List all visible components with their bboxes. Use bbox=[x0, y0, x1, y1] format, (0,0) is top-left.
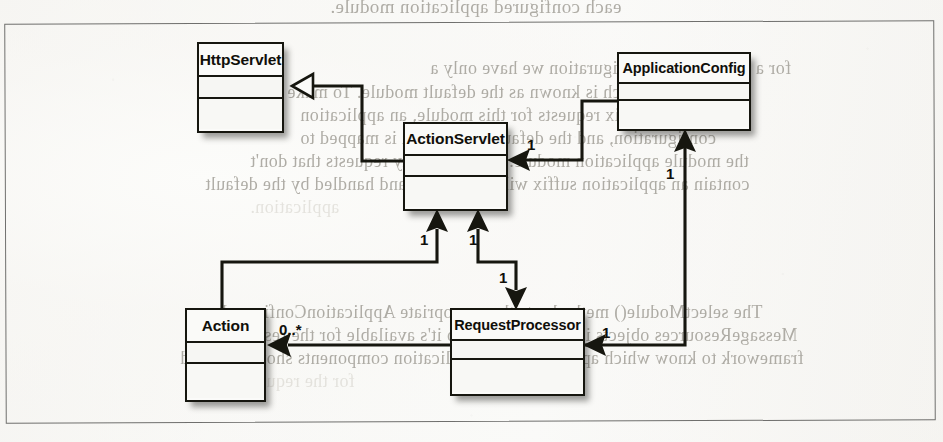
uml-class-attributes-compartment bbox=[199, 77, 282, 99]
mult-reqproc-action: 0..* bbox=[279, 322, 302, 337]
bleed-text-line: each configured application module. bbox=[330, 0, 622, 18]
uml-class-name: ApplicationConfig bbox=[619, 54, 749, 84]
uml-class-operations-compartment bbox=[199, 99, 282, 129]
mult-actionservlet-reqproc-b: 1 bbox=[499, 270, 507, 285]
uml-class-operations-compartment bbox=[187, 364, 264, 398]
uml-class-operations-compartment bbox=[405, 177, 506, 207]
mult-appconfig-actionservlet: 1 bbox=[527, 137, 535, 152]
uml-class-name: RequestProcessor bbox=[452, 310, 583, 341]
uml-class-attributes-compartment bbox=[619, 84, 749, 101]
uml-class-applicationconfig[interactable]: ApplicationConfig bbox=[617, 52, 751, 131]
uml-class-name: ActionServlet bbox=[405, 124, 506, 156]
mult-reqproc-appconfig-lower: 1 bbox=[602, 325, 610, 340]
uml-class-actionservlet[interactable]: ActionServlet bbox=[403, 122, 508, 211]
uml-class-operations-compartment bbox=[619, 101, 749, 127]
uml-class-attributes-compartment bbox=[187, 343, 264, 364]
uml-class-name: Action bbox=[187, 310, 264, 343]
mult-reqproc-appconfig: 1 bbox=[666, 166, 674, 181]
uml-class-name: HttpServlet bbox=[199, 44, 282, 77]
mult-actionservlet-reqproc-a: 1 bbox=[469, 232, 477, 247]
mult-action-actionservlet: 1 bbox=[420, 232, 428, 247]
uml-class-httpservlet[interactable]: HttpServlet bbox=[197, 42, 284, 133]
uml-class-operations-compartment bbox=[452, 360, 583, 392]
uml-class-action[interactable]: Action bbox=[185, 308, 266, 402]
scanned-page: each configured application module.for a… bbox=[0, 0, 943, 442]
uml-class-attributes-compartment bbox=[452, 341, 583, 360]
uml-class-requestprocessor[interactable]: RequestProcessor bbox=[450, 308, 585, 396]
uml-class-attributes-compartment bbox=[405, 156, 506, 177]
